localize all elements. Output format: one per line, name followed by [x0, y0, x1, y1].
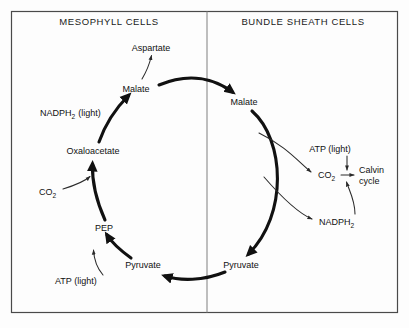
node-label-pep: PEP — [95, 223, 113, 233]
nadph2-subscript: 2 — [72, 113, 76, 120]
node-label-nadph2-bundle-sheath: NADPH2 — [319, 217, 355, 229]
nadph2-text-bundle-sheath: NADPH — [319, 217, 351, 227]
node-label-oxaloacetate: Oxaloacetate — [66, 146, 119, 156]
co2-subscript-bundle-sheath: 2 — [332, 175, 336, 182]
co2-subscript-mesophyll: 2 — [53, 192, 57, 199]
node-label-calvin-cycle-line1: Calvin — [359, 165, 384, 175]
cofactor-label-nadph2-mesophyll: NADPH2(light) — [40, 108, 101, 120]
cofactor-label-atp-mesophyll: ATP (light) — [55, 276, 97, 286]
node-label-calvin-cycle-line2: cycle — [359, 176, 380, 186]
node-label-pyruvate-mesophyll: Pyruvate — [125, 260, 161, 270]
cofactor-label-atp-bundle-sheath: ATP (light) — [309, 144, 351, 154]
node-label-malate-mesophyll: Malate — [122, 84, 149, 94]
panel-title-mesophyll: MESOPHYLL CELLS — [59, 16, 158, 27]
node-label-pyruvate-bundle-sheath: Pyruvate — [223, 260, 259, 270]
node-label-aspartate: Aspartate — [132, 43, 171, 53]
nadph2-text: NADPH — [40, 108, 72, 118]
panel-title-bundle-sheath: BUNDLE SHEATH CELLS — [241, 16, 364, 27]
nadph2-subscript-bundle-sheath: 2 — [351, 222, 355, 229]
co2-text-mesophyll: CO — [39, 187, 53, 197]
co2-text-bundle-sheath: CO — [318, 170, 332, 180]
nadph2-light-text: (light) — [78, 108, 101, 118]
c4-pathway-diagram: MESOPHYLL CELLS BUNDLE SHEATH CELLS Aspa… — [0, 0, 409, 328]
node-label-malate-bundle-sheath: Malate — [230, 97, 257, 107]
diagram-canvas: MESOPHYLL CELLS BUNDLE SHEATH CELLS Aspa… — [0, 0, 409, 328]
